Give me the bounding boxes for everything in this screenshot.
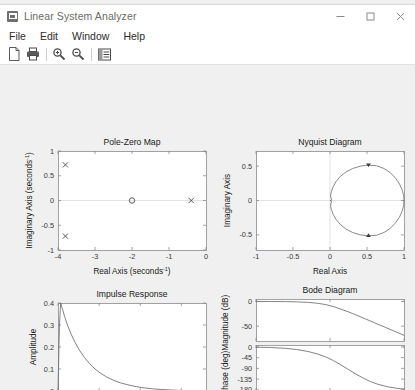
svg-text:1: 1 — [402, 252, 406, 261]
menu-item-edit[interactable]: Edit — [40, 30, 58, 42]
svg-text:-50: -50 — [241, 322, 252, 331]
new-document-icon[interactable] — [6, 46, 22, 62]
properties-icon[interactable] — [96, 46, 112, 62]
svg-text:-135: -135 — [237, 375, 252, 384]
print-icon[interactable] — [25, 46, 41, 62]
window-title: Linear System Analyzer — [24, 10, 137, 22]
toolbar-separator-1 — [46, 48, 47, 61]
svg-text:-0.5: -0.5 — [41, 221, 54, 230]
svg-text:0.5: 0.5 — [362, 252, 372, 261]
svg-text:0.2: 0.2 — [44, 343, 54, 352]
svg-text:-4: -4 — [55, 252, 62, 261]
svg-text:0.1: 0.1 — [44, 365, 54, 374]
svg-text:-1: -1 — [253, 252, 260, 261]
svg-text:0: 0 — [248, 297, 252, 306]
maximize-icon[interactable] — [355, 5, 385, 27]
svg-text:Phase (deg)Magnitude (dB): Phase (deg)Magnitude (dB) — [221, 294, 230, 390]
plot-grid: -4-3-2-10-1-0.500.51Pole-Zero MapReal Ax… — [0, 65, 415, 388]
window-controls — [325, 5, 415, 27]
minimize-icon[interactable] — [325, 5, 355, 27]
title-bar: Linear System Analyzer — [0, 5, 415, 27]
svg-text:Imaginary Axis (seconds-1): Imaginary Axis (seconds-1) — [24, 152, 34, 249]
svg-text:0: 0 — [204, 252, 208, 261]
menu-bar: File Edit Window Help — [0, 27, 415, 44]
svg-text:-0.5: -0.5 — [287, 252, 300, 261]
svg-text:-45: -45 — [241, 353, 252, 362]
toolbar-separator-2 — [91, 48, 92, 61]
svg-text:-90: -90 — [241, 364, 252, 373]
svg-text:-3: -3 — [92, 252, 99, 261]
app-icon — [7, 11, 18, 22]
close-icon[interactable] — [385, 5, 415, 27]
zoom-out-icon[interactable] — [70, 46, 86, 62]
menu-item-help[interactable]: Help — [123, 30, 145, 42]
svg-text:-180: -180 — [237, 385, 252, 390]
svg-text:Impulse Response: Impulse Response — [96, 289, 167, 299]
svg-text:Pole-Zero Map: Pole-Zero Map — [104, 137, 161, 147]
svg-text:0: 0 — [248, 343, 252, 352]
toolbar — [0, 44, 415, 65]
svg-text:Real Axis (seconds-1): Real Axis (seconds-1) — [93, 266, 170, 276]
svg-text:Nyquist Diagram: Nyquist Diagram — [298, 137, 362, 147]
menu-item-file[interactable]: File — [9, 30, 26, 42]
plot-canvas[interactable]: -4-3-2-10-1-0.500.51Pole-Zero MapReal Ax… — [0, 65, 415, 390]
svg-text:0.5: 0.5 — [242, 162, 252, 171]
svg-text:-1: -1 — [166, 252, 173, 261]
svg-text:0.3: 0.3 — [44, 321, 54, 330]
svg-text:0.4: 0.4 — [44, 299, 54, 308]
svg-text:Amplitude: Amplitude — [29, 328, 38, 365]
svg-text:Real Axis: Real Axis — [313, 267, 347, 276]
svg-text:-1: -1 — [48, 246, 55, 255]
svg-text:0.5: 0.5 — [44, 171, 54, 180]
svg-text:-0.5: -0.5 — [239, 230, 252, 239]
zoom-in-icon[interactable] — [51, 46, 67, 62]
svg-text:Bode Diagram: Bode Diagram — [303, 285, 358, 295]
menu-item-window[interactable]: Window — [72, 30, 109, 42]
svg-text:0: 0 — [50, 387, 54, 390]
svg-text:0: 0 — [50, 196, 54, 205]
linear-system-analyzer-window: Linear System Analyzer File Edit Window … — [0, 4, 415, 388]
svg-text:Imaginary Axis: Imaginary Axis — [223, 174, 232, 227]
svg-text:0: 0 — [248, 196, 252, 205]
svg-text:-2: -2 — [129, 252, 136, 261]
svg-text:0: 0 — [328, 252, 332, 261]
svg-text:1: 1 — [50, 147, 54, 156]
